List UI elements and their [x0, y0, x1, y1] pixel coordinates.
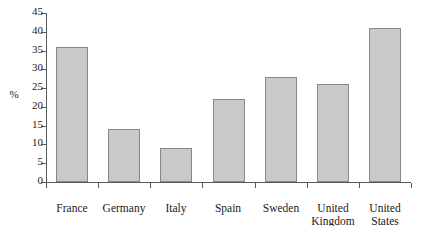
y-tick-label: 20	[32, 99, 43, 111]
x-category-label-line: United	[307, 202, 359, 215]
x-category-label: UnitedStates	[359, 202, 411, 226]
x-category-label-line: Sweden	[255, 202, 307, 215]
x-category-label: Sweden	[255, 202, 307, 215]
x-tick-mark	[98, 183, 99, 188]
y-tick-label: 15	[32, 118, 43, 130]
x-category-label-line: France	[46, 202, 98, 215]
x-category-label-line: States	[359, 215, 411, 226]
x-tick-mark	[359, 183, 360, 188]
y-tick-label: 10	[32, 136, 43, 148]
x-tick-mark	[202, 183, 203, 188]
y-tick-label: 30	[32, 61, 43, 73]
bar	[56, 47, 88, 182]
y-tick-label: 0	[38, 174, 44, 186]
bar	[213, 99, 245, 182]
x-category-label-line: Italy	[150, 202, 202, 215]
x-category-label-line: United	[359, 202, 411, 215]
y-axis-line	[46, 13, 47, 183]
bar	[317, 84, 349, 182]
bar-chart: % 051015202530354045 FranceGermanyItalyS…	[0, 0, 430, 226]
x-category-label-line: Kingdom	[307, 215, 359, 226]
bar	[369, 28, 401, 182]
x-category-label: UnitedKingdom	[307, 202, 359, 226]
plot-area: 051015202530354045 FranceGermanyItalySpa…	[46, 13, 411, 183]
y-tick-label: 5	[38, 155, 44, 167]
bar	[160, 148, 192, 182]
y-tick-label: 25	[32, 80, 43, 92]
x-tick-mark	[411, 183, 412, 188]
y-tick-label: 45	[32, 5, 43, 17]
x-category-label: Italy	[150, 202, 202, 215]
y-tick-label: 40	[32, 24, 43, 36]
x-axis-line	[46, 182, 411, 183]
bar	[265, 77, 297, 182]
bar	[108, 129, 140, 182]
y-tick-label: 35	[32, 43, 43, 55]
x-category-label-line: Germany	[98, 202, 150, 215]
x-category-label: Germany	[98, 202, 150, 215]
x-tick-mark	[307, 183, 308, 188]
x-category-label: Spain	[202, 202, 254, 215]
x-category-label-line: Spain	[202, 202, 254, 215]
y-axis-label: %	[4, 88, 24, 100]
x-category-label: France	[46, 202, 98, 215]
x-tick-mark	[255, 183, 256, 188]
x-tick-mark	[150, 183, 151, 188]
x-tick-mark	[46, 183, 47, 188]
